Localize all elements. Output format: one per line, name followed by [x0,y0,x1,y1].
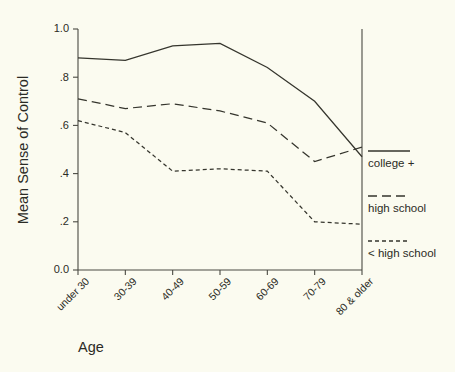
chart-background [0,0,455,372]
legend-label-2: < high school [368,247,436,259]
y-tick-label: .4 [60,167,69,179]
x-axis-title: Age [78,339,104,355]
y-axis-title: Mean Sense of Control [15,76,31,224]
chart-container: 1.0.8.6.4.20.0 under 3030-3940-4950-5960… [0,0,455,372]
y-tick-label: 0.0 [54,263,69,275]
y-tick-label: .8 [60,71,69,83]
line-chart: 1.0.8.6.4.20.0 under 3030-3940-4950-5960… [0,0,455,372]
legend-label-1: high school [368,202,426,214]
y-tick-label: .2 [60,215,69,227]
y-tick-label: .6 [60,119,69,131]
legend-label-0: college + [368,157,415,169]
y-tick-label: 1.0 [54,22,69,34]
